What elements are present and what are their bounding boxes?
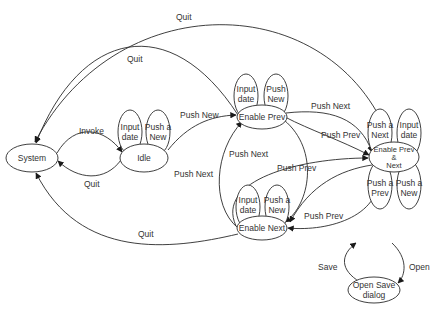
edge-label-push-prev-mid: Push Prev bbox=[321, 130, 361, 140]
node-label-enable-prev-next: Next bbox=[386, 161, 402, 170]
edge-label-push-next-left: Push Next bbox=[174, 169, 214, 179]
loop-label: date bbox=[122, 132, 139, 142]
loop-label: date bbox=[238, 94, 255, 104]
edge-label-open: Open bbox=[409, 262, 430, 272]
node-label-enable-next: Enable Next bbox=[239, 223, 286, 233]
loop-label: Push a bbox=[367, 120, 394, 130]
edge-label-push-new: Push New bbox=[180, 110, 220, 120]
loop-label: Push a bbox=[396, 178, 423, 188]
edge-label-invoke: Invoke bbox=[79, 126, 104, 136]
state-diagram: Input date Push a New Input date Push Ne… bbox=[0, 0, 433, 310]
loop-label: date bbox=[240, 205, 257, 215]
node-label-open-save: dialog bbox=[363, 290, 386, 300]
node-label-system: System bbox=[18, 153, 46, 163]
edge-label-save: Save bbox=[318, 262, 338, 272]
loop-label: Input bbox=[239, 195, 259, 205]
edge-label-quit-top: Quit bbox=[176, 12, 192, 22]
node-label-idle: Idle bbox=[137, 153, 151, 163]
loop-label: Push a bbox=[367, 178, 394, 188]
loop-label: New bbox=[400, 188, 418, 198]
loop-label: Push bbox=[266, 84, 286, 94]
loop-label: Input bbox=[400, 120, 420, 130]
edge-label-quit-idle: Quit bbox=[84, 179, 100, 189]
edge-label-push-prev-center: Push Prev bbox=[277, 163, 317, 173]
loop-label: New bbox=[149, 132, 167, 142]
loop-label: Input bbox=[121, 122, 141, 132]
edge-open bbox=[392, 243, 404, 283]
edge-label-push-next-center: Push Next bbox=[229, 149, 269, 159]
loop-label: Push a bbox=[145, 122, 172, 132]
loop-label: New bbox=[268, 205, 286, 215]
loop-label: New bbox=[267, 94, 285, 104]
edge-save bbox=[344, 243, 360, 282]
edge-label-quit-second: Quit bbox=[127, 54, 143, 64]
edge-push-new bbox=[168, 115, 236, 150]
loop-label: Prev bbox=[371, 188, 389, 198]
edge-label-push-next-top: Push Next bbox=[311, 101, 351, 111]
loop-label: Input bbox=[237, 84, 257, 94]
loop-label: Next bbox=[371, 130, 389, 140]
loop-label: date bbox=[401, 130, 418, 140]
edge-label-quit-bottom: Quit bbox=[138, 229, 154, 239]
node-label-enable-prev: Enable Prev bbox=[239, 112, 286, 122]
node-label-open-save: Open Save bbox=[353, 280, 396, 290]
edge-quit-idle bbox=[58, 160, 121, 176]
edge-quit-bottom bbox=[36, 173, 238, 245]
edge-label-push-prev-low: Push Prev bbox=[304, 211, 344, 221]
loop-label: Push a bbox=[264, 195, 291, 205]
